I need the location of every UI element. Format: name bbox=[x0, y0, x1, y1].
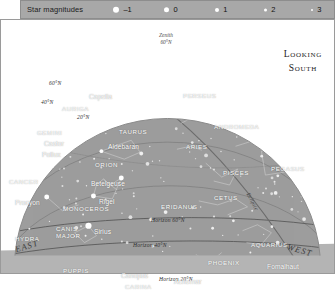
background-star-dot bbox=[213, 215, 215, 217]
background-star-dot bbox=[136, 208, 137, 209]
constellation-label: ARIES bbox=[186, 144, 207, 150]
magnitude-legend: Star magnitudes –10123 bbox=[20, 0, 335, 19]
background-star-dot bbox=[159, 160, 160, 161]
constellation-label: GEMINI bbox=[37, 130, 62, 136]
background-star-dot bbox=[276, 174, 279, 177]
background-star-dot bbox=[200, 165, 203, 168]
background-star-dot bbox=[111, 120, 114, 123]
constellation-label: ERIDANUS bbox=[161, 204, 197, 210]
constellation-label: PHOENIX bbox=[208, 260, 240, 266]
background-star-dot bbox=[237, 234, 238, 235]
altitude-arc-label: 60°N bbox=[49, 81, 61, 87]
constellation-label: CANCER bbox=[9, 179, 38, 185]
legend-item-label: 3 bbox=[317, 5, 321, 14]
background-star-dot bbox=[162, 251, 163, 252]
star-label: Achernar bbox=[174, 279, 202, 286]
constellation-label: PEGASUS bbox=[271, 166, 305, 172]
star-chart-page: Star magnitudes –10123 bbox=[0, 0, 335, 293]
background-star-dot bbox=[260, 155, 263, 158]
constellation-label: MONOCEROS bbox=[63, 206, 109, 212]
background-star-dot bbox=[115, 193, 116, 194]
legend-item-label: 0 bbox=[173, 5, 177, 14]
star-label: Canopus bbox=[121, 273, 148, 280]
background-star-dot bbox=[211, 227, 214, 230]
background-star-dot bbox=[152, 161, 153, 162]
background-star-dot bbox=[271, 225, 274, 228]
bright-star-dot bbox=[100, 149, 104, 153]
background-star-dot bbox=[219, 120, 220, 121]
background-star-dot bbox=[213, 169, 215, 171]
constellation-label: TAURUS bbox=[119, 129, 147, 135]
background-star-dot bbox=[122, 188, 123, 189]
background-star-dot bbox=[61, 185, 63, 187]
legend-item-label: –1 bbox=[123, 5, 131, 14]
magnitude-dot-icon bbox=[311, 9, 313, 11]
background-star-dot bbox=[182, 133, 183, 134]
background-star-dot bbox=[126, 241, 129, 244]
heading-line2: South bbox=[284, 62, 322, 76]
star-label: Pollux bbox=[42, 152, 61, 159]
background-star-dot bbox=[210, 167, 211, 168]
constellation-label: PERSEUS bbox=[183, 93, 216, 99]
background-star-dot bbox=[75, 198, 77, 200]
background-star-dot bbox=[195, 158, 196, 159]
constellation-label: CETUS bbox=[214, 195, 238, 201]
bright-star-dot bbox=[115, 88, 121, 94]
background-star-dot bbox=[175, 127, 178, 130]
background-star-dot bbox=[297, 211, 298, 212]
background-star-dot bbox=[91, 134, 92, 135]
background-star-dot bbox=[79, 161, 80, 162]
background-star-dot bbox=[101, 238, 102, 239]
constellation-label: AQUARIUS bbox=[251, 242, 288, 248]
constellation-label: ORION bbox=[95, 162, 118, 168]
background-star-dot bbox=[121, 241, 123, 243]
altitude-arc-label: 20°N bbox=[77, 115, 89, 121]
background-star-dot bbox=[301, 201, 302, 202]
bright-star-dot bbox=[85, 223, 91, 229]
legend-item-label: 2 bbox=[271, 5, 275, 14]
star-label: Betelgeuse bbox=[91, 181, 125, 188]
background-star-dot bbox=[146, 162, 150, 166]
background-star-dot bbox=[108, 158, 109, 159]
background-star-dot bbox=[129, 215, 133, 219]
background-star-dot bbox=[85, 235, 87, 237]
background-star-dot bbox=[233, 159, 234, 160]
background-star-dot bbox=[274, 191, 278, 195]
constellation-label: MAJOR bbox=[56, 233, 80, 239]
background-star-dot bbox=[82, 213, 84, 215]
star-label: Rigel bbox=[99, 199, 115, 206]
legend-title: Star magnitudes bbox=[27, 5, 83, 14]
background-star-dot bbox=[121, 212, 122, 213]
background-star-dot bbox=[69, 156, 71, 158]
zenith-line1: Zenith bbox=[144, 32, 188, 39]
background-star-dot bbox=[236, 136, 237, 137]
background-star-dot bbox=[274, 181, 276, 183]
star-label: Aldebaran bbox=[108, 144, 139, 151]
constellation-label: PUPPIS bbox=[63, 268, 89, 274]
background-star-dot bbox=[133, 195, 135, 197]
background-star-dot bbox=[86, 185, 87, 186]
background-star-dot bbox=[189, 228, 191, 230]
constellation-label: PISCES bbox=[223, 170, 249, 176]
heading-line1: Looking bbox=[284, 48, 322, 62]
background-star-dot bbox=[78, 141, 79, 142]
star-label: Fomalhaut bbox=[267, 264, 299, 271]
background-star-dot bbox=[69, 199, 70, 200]
background-star-dot bbox=[220, 151, 221, 152]
star-label: Sirius bbox=[94, 229, 111, 236]
magnitude-dot-icon bbox=[215, 8, 219, 12]
background-star-dot bbox=[149, 146, 150, 147]
background-star-dot bbox=[274, 183, 275, 184]
background-star-dot bbox=[292, 196, 293, 197]
magnitude-dot-icon bbox=[113, 7, 119, 13]
background-star-dot bbox=[204, 153, 208, 157]
background-star-dot bbox=[257, 187, 258, 188]
background-star-dot bbox=[229, 215, 231, 217]
horizon-label: Horizon 60°N bbox=[151, 218, 185, 224]
background-star-dot bbox=[63, 167, 65, 169]
constellation-label: ANDROMEDA bbox=[214, 124, 259, 130]
background-star-dot bbox=[61, 176, 62, 177]
bright-star-dot bbox=[91, 193, 96, 198]
magnitude-dot-icon bbox=[264, 8, 267, 11]
background-star-dot bbox=[163, 181, 164, 182]
